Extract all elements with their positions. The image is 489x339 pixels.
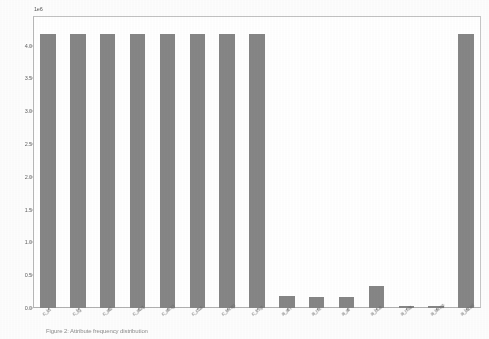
x-axis-tick-label: a_an: [280, 305, 292, 316]
x-axis-tick-label: a_mla: [399, 304, 413, 317]
x-axis-tick-label: a_ns: [310, 306, 322, 317]
x-axis-tick-label: c_cca: [190, 304, 204, 316]
figure-caption: Figure 2: Attribute frequency distributi…: [46, 327, 446, 335]
x-axis-tick-label: c_id: [41, 307, 52, 317]
x-axis-tick-label: c_tmp: [250, 304, 264, 317]
x-axis-tick-label: c_amg: [160, 303, 175, 317]
bar-chart-figure: 1e6 0.00.51.01.52.02.53.03.54.0 c_idc_fg…: [0, 0, 489, 339]
x-axis-tick-label: a_bus: [369, 304, 383, 317]
x-axis-ticks: c_idc_fgc_adc_acqc_amgc_ccac_tempc_tmpa_…: [0, 0, 489, 339]
x-axis-tick-label: c_fg: [71, 306, 82, 316]
x-axis-tick-label: c_ad: [101, 306, 113, 317]
x-axis-tick-label: a_ar: [340, 306, 351, 317]
x-axis-tick-label: c_acq: [131, 304, 145, 317]
x-axis-tick-label: a_temp: [429, 302, 445, 317]
x-axis-tick-label: a_label: [459, 303, 475, 317]
x-axis-tick-label: c_temp: [220, 302, 236, 316]
